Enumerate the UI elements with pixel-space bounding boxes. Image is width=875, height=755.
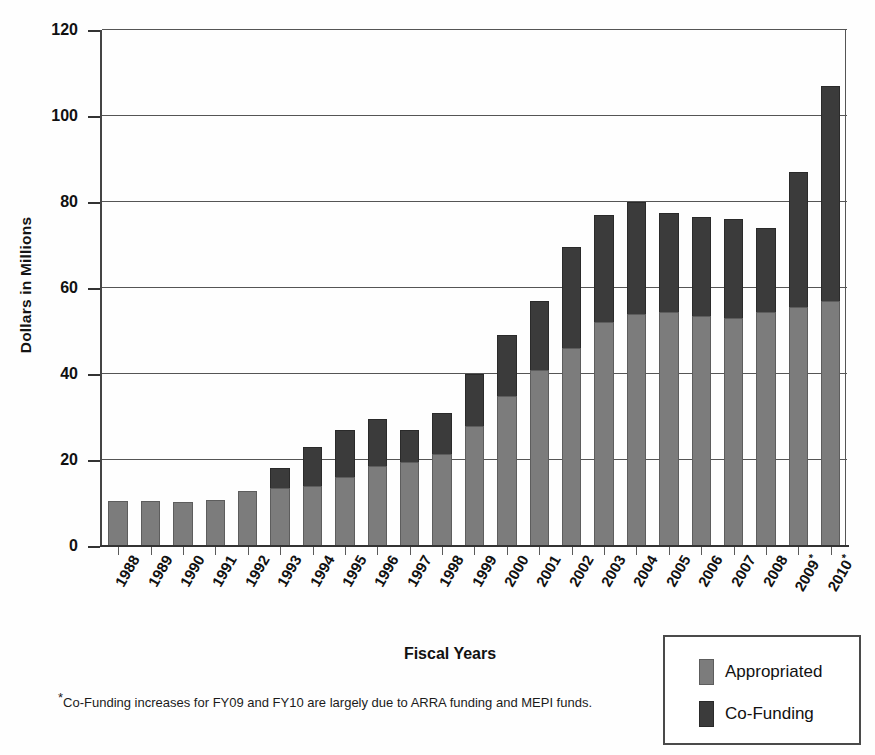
bar-segment-co-funding[interactable] bbox=[497, 335, 516, 395]
bar-stack-1989[interactable] bbox=[141, 501, 160, 546]
bar-segment-co-funding[interactable] bbox=[335, 430, 354, 477]
bar-slot[interactable] bbox=[717, 30, 749, 546]
x-tick-label-2001: 2001 bbox=[533, 552, 564, 589]
bar-stack-2006[interactable] bbox=[692, 217, 711, 546]
bar-stack-2010[interactable] bbox=[821, 86, 840, 546]
x-tick-label-2008: 2008 bbox=[759, 552, 790, 589]
bar-segment-appropriated[interactable] bbox=[368, 466, 387, 546]
bar-segment-co-funding[interactable] bbox=[594, 215, 613, 323]
bar-stack-2005[interactable] bbox=[659, 213, 678, 546]
bar-segment-co-funding[interactable] bbox=[756, 228, 775, 312]
bar-stack-1992[interactable] bbox=[238, 491, 257, 546]
bar-segment-co-funding[interactable] bbox=[821, 86, 840, 301]
bar-slot[interactable] bbox=[555, 30, 587, 546]
bar-segment-co-funding[interactable] bbox=[530, 301, 549, 370]
bar-segment-appropriated[interactable] bbox=[141, 501, 160, 546]
bar-stack-1999[interactable] bbox=[465, 374, 484, 546]
bar-segment-co-funding[interactable] bbox=[627, 202, 646, 314]
footnote-text: Co-Funding increases for FY09 and FY10 a… bbox=[63, 695, 592, 710]
bar-stack-1988[interactable] bbox=[108, 501, 127, 546]
bar-slot[interactable] bbox=[750, 30, 782, 546]
bar-segment-appropriated[interactable] bbox=[724, 318, 743, 546]
bar-segment-co-funding[interactable] bbox=[432, 413, 451, 454]
bar-slot[interactable] bbox=[134, 30, 166, 546]
x-axis-title: Fiscal Years bbox=[300, 645, 600, 663]
bar-segment-appropriated[interactable] bbox=[530, 370, 549, 546]
bar-slot[interactable] bbox=[394, 30, 426, 546]
bar-stack-1993[interactable] bbox=[270, 468, 289, 546]
bar-segment-appropriated[interactable] bbox=[594, 322, 613, 546]
bar-segment-appropriated[interactable] bbox=[206, 500, 225, 546]
legend-swatch-icon bbox=[699, 659, 714, 685]
bar-segment-co-funding[interactable] bbox=[789, 172, 808, 307]
x-tick-label-2005: 2005 bbox=[662, 552, 693, 589]
bar-segment-co-funding[interactable] bbox=[692, 217, 711, 316]
bar-segment-co-funding[interactable] bbox=[465, 374, 484, 426]
bar-segment-appropriated[interactable] bbox=[303, 486, 322, 546]
bar-segment-appropriated[interactable] bbox=[270, 488, 289, 546]
bar-segment-appropriated[interactable] bbox=[432, 454, 451, 546]
bar-slot[interactable] bbox=[491, 30, 523, 546]
bar-segment-appropriated[interactable] bbox=[821, 301, 840, 546]
bar-segment-appropriated[interactable] bbox=[756, 312, 775, 546]
bar-segment-appropriated[interactable] bbox=[659, 312, 678, 546]
legend-item[interactable]: Appropriated bbox=[699, 651, 859, 693]
bar-segment-appropriated[interactable] bbox=[789, 307, 808, 546]
bar-segment-co-funding[interactable] bbox=[562, 247, 581, 348]
bar-stack-1995[interactable] bbox=[335, 430, 354, 546]
bar-segment-co-funding[interactable] bbox=[400, 430, 419, 462]
bar-segment-appropriated[interactable] bbox=[173, 502, 192, 546]
bar-stack-2003[interactable] bbox=[594, 215, 613, 546]
bar-stack-1997[interactable] bbox=[400, 430, 419, 546]
bar-slot[interactable] bbox=[782, 30, 814, 546]
bar-slot[interactable] bbox=[653, 30, 685, 546]
bar-segment-co-funding[interactable] bbox=[368, 419, 387, 466]
bar-stack-1996[interactable] bbox=[368, 419, 387, 546]
bar-slot[interactable] bbox=[199, 30, 231, 546]
bar-slot[interactable] bbox=[426, 30, 458, 546]
bar-stack-2008[interactable] bbox=[756, 228, 775, 546]
bar-segment-appropriated[interactable] bbox=[562, 348, 581, 546]
bar-stack-2007[interactable] bbox=[724, 219, 743, 546]
bar-stack-2004[interactable] bbox=[627, 202, 646, 546]
x-tick-label-2003: 2003 bbox=[597, 552, 628, 589]
bar-segment-appropriated[interactable] bbox=[335, 477, 354, 546]
bar-segment-appropriated[interactable] bbox=[627, 314, 646, 546]
bar-segment-appropriated[interactable] bbox=[400, 462, 419, 546]
bar-slot[interactable] bbox=[264, 30, 296, 546]
bar-slot[interactable] bbox=[458, 30, 490, 546]
bar-segment-appropriated[interactable] bbox=[238, 491, 257, 546]
bar-segment-co-funding[interactable] bbox=[724, 219, 743, 318]
x-tick-label-2000: 2000 bbox=[500, 552, 531, 589]
bar-segment-co-funding[interactable] bbox=[303, 447, 322, 486]
bar-stack-2001[interactable] bbox=[530, 301, 549, 546]
bar-slot[interactable] bbox=[102, 30, 134, 546]
bar-slot[interactable] bbox=[815, 30, 847, 546]
bar-slot[interactable] bbox=[361, 30, 393, 546]
bar-slot[interactable] bbox=[329, 30, 361, 546]
bar-stack-1991[interactable] bbox=[206, 500, 225, 546]
bar-stack-2002[interactable] bbox=[562, 247, 581, 546]
bar-segment-appropriated[interactable] bbox=[465, 426, 484, 546]
bar-segment-appropriated[interactable] bbox=[108, 501, 127, 546]
bar-segment-appropriated[interactable] bbox=[692, 316, 711, 546]
bar-slot[interactable] bbox=[685, 30, 717, 546]
bar-slot[interactable] bbox=[296, 30, 328, 546]
bar-stack-1998[interactable] bbox=[432, 413, 451, 546]
legend-label: Appropriated bbox=[725, 662, 822, 682]
y-tick-mark-0 bbox=[88, 546, 100, 548]
bar-slot[interactable] bbox=[232, 30, 264, 546]
bar-stack-2000[interactable] bbox=[497, 335, 516, 546]
x-axis-tick-labels: 1988198919901991199219931994199519961997… bbox=[100, 552, 845, 632]
bar-slot[interactable] bbox=[523, 30, 555, 546]
bar-slot[interactable] bbox=[620, 30, 652, 546]
bar-slot[interactable] bbox=[167, 30, 199, 546]
bar-segment-co-funding[interactable] bbox=[270, 468, 289, 488]
bar-segment-appropriated[interactable] bbox=[497, 396, 516, 547]
bar-stack-2009[interactable] bbox=[789, 172, 808, 546]
bar-stack-1994[interactable] bbox=[303, 447, 322, 546]
bar-stack-1990[interactable] bbox=[173, 502, 192, 546]
bar-slot[interactable] bbox=[588, 30, 620, 546]
legend-item[interactable]: Co-Funding bbox=[699, 693, 859, 735]
bar-segment-co-funding[interactable] bbox=[659, 213, 678, 312]
